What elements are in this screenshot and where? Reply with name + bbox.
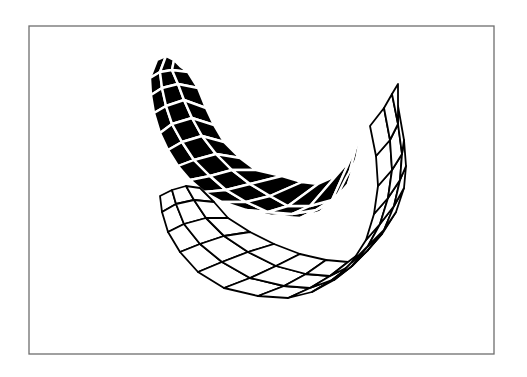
mesh-face-dark (356, 100, 370, 162)
banana-mesh-figure (0, 0, 527, 377)
